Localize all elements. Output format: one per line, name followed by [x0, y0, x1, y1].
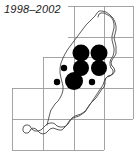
record-dot-small — [54, 79, 60, 85]
record-dot-large — [91, 45, 108, 62]
record-dot-small — [61, 65, 67, 71]
record-dot-large — [91, 60, 107, 76]
record-dot-large — [65, 72, 83, 90]
record-dot-small — [89, 79, 95, 85]
distribution-map-figure: 1998–2002 — [0, 0, 136, 157]
map-canvas — [0, 0, 136, 157]
record-dot-large — [73, 45, 90, 62]
